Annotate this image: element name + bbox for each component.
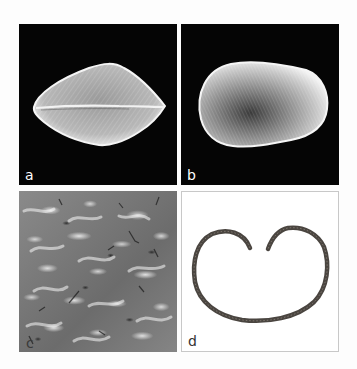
panel-b: b: [181, 24, 339, 185]
seed-cross-section-image: [182, 192, 338, 351]
seed-coat-texture-image: [19, 191, 177, 352]
panel-label-d: d: [188, 334, 197, 348]
panel-label-c: c: [26, 336, 34, 350]
panel-label-a: a: [25, 168, 34, 182]
seed-groove-view-image: [19, 24, 177, 185]
panel-label-b: b: [187, 168, 196, 182]
panel-a: a: [19, 24, 177, 185]
panel-c: c: [19, 191, 177, 352]
figure: a b: [0, 0, 357, 369]
seed-lateral-view-image: [181, 24, 339, 185]
panel-d: d: [181, 191, 339, 352]
